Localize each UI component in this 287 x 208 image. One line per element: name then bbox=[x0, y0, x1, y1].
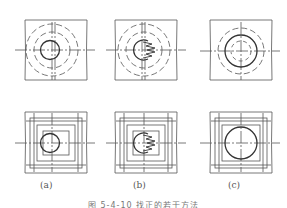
panel-label-c: (c) bbox=[228, 180, 240, 190]
panel-b-top bbox=[106, 20, 186, 80]
figure-caption: 图 5-4-10 找正的若干方法 bbox=[0, 199, 287, 208]
panel-a-bottom bbox=[15, 112, 95, 173]
panel-label-a: (a) bbox=[40, 180, 52, 190]
panel-b-bottom bbox=[106, 112, 186, 173]
panel-c-top bbox=[200, 20, 280, 80]
panel-label-b: (b) bbox=[133, 180, 146, 190]
figure-canvas bbox=[0, 0, 287, 208]
panel-a-top bbox=[15, 20, 95, 80]
panel-c-bottom bbox=[200, 112, 280, 173]
